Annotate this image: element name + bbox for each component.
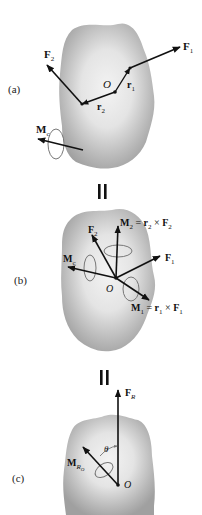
equals-separator-1	[98, 184, 107, 199]
equals-separator-2	[100, 370, 109, 385]
panel-b: (b) M2 = r2 × F2 F2 F1 Mc O M1 = r1 × F1	[14, 209, 183, 351]
point-O-a	[113, 90, 117, 94]
label-F2-a: F2	[44, 48, 55, 63]
label-Mc-a: Mc	[36, 123, 50, 138]
rigid-body-force-system-diagram: (a) F1 F2 O r1 r2 Mc (b) M2 = r2 × F2 F2…	[0, 0, 202, 515]
r2-tip-point	[80, 102, 83, 105]
label-F1-b: F1	[165, 252, 175, 266]
rigid-body-a	[59, 23, 154, 168]
panel-a: (a) F1 F2 O r1 r2 Mc	[8, 23, 194, 168]
label-theta-c: θ	[104, 444, 109, 454]
label-F1-a: F1	[183, 40, 194, 55]
label-FR-c: FR	[125, 387, 136, 401]
panel-label-b: (b)	[14, 274, 27, 287]
label-O-b: O	[106, 283, 113, 294]
label-O-c: O	[124, 479, 131, 490]
rigid-body-b	[61, 209, 155, 351]
label-O-a: O	[103, 78, 111, 90]
point-O-c	[116, 483, 120, 487]
panel-c: (c) FR θ MRO O	[12, 387, 155, 515]
panel-label-c: (c)	[12, 472, 25, 485]
panel-label-a: (a)	[8, 83, 21, 96]
r1-tip-point	[128, 66, 131, 69]
point-O-b	[114, 276, 118, 280]
